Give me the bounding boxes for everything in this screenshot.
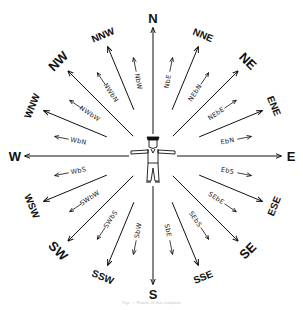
label-wnw: WNW bbox=[22, 91, 42, 120]
label-nwbn: NWbN bbox=[102, 82, 121, 104]
label-n: N bbox=[148, 11, 157, 26]
arrow-sw bbox=[68, 176, 133, 241]
arrow-nbw bbox=[134, 58, 137, 72]
label-sebs: SEbS bbox=[187, 210, 203, 229]
label-sebe: SEbE bbox=[207, 190, 226, 206]
label-wbn: WbN bbox=[70, 136, 88, 147]
label-swbs: SWbS bbox=[102, 209, 120, 230]
sailor-figure-icon bbox=[131, 137, 175, 182]
arrow-nwbn bbox=[97, 73, 105, 85]
arrow-sbw bbox=[134, 240, 137, 254]
label-nebe: NEbE bbox=[206, 105, 226, 122]
label-nebn: NEbN bbox=[187, 83, 204, 103]
label-sbw: SbW bbox=[133, 222, 144, 239]
label-nnw: NNW bbox=[90, 25, 117, 45]
arrow-ne bbox=[173, 71, 238, 136]
arrow-se bbox=[173, 176, 238, 241]
label-e: E bbox=[287, 149, 296, 164]
arrow-nebe bbox=[225, 100, 237, 108]
label-sw: SW bbox=[45, 238, 71, 264]
arrow-nbe bbox=[170, 58, 173, 72]
arrow-swbs bbox=[97, 228, 105, 240]
label-wsw: WSW bbox=[22, 192, 42, 220]
label-nbw: NbW bbox=[133, 73, 144, 91]
arrow-nebn bbox=[201, 73, 209, 85]
label-swbw: SWbW bbox=[78, 189, 101, 208]
arrow-sebe bbox=[225, 204, 237, 212]
label-sse: SSE bbox=[192, 268, 215, 286]
arrow-nw bbox=[68, 71, 133, 136]
arrow-wbs bbox=[55, 173, 69, 176]
figure-caption: Fig. — Points of the compass bbox=[0, 300, 303, 305]
label-ne: NE bbox=[236, 50, 260, 74]
label-w: W bbox=[9, 149, 22, 164]
arrow-ebs bbox=[237, 173, 251, 176]
arrow-ebn bbox=[237, 137, 251, 140]
label-se: SE bbox=[236, 239, 259, 262]
arrow-sbe bbox=[170, 240, 173, 254]
label-sbe: SbE bbox=[163, 223, 173, 238]
label-ese: ESE bbox=[265, 194, 283, 217]
arrow-wbn bbox=[55, 137, 69, 140]
label-wbs: WbS bbox=[70, 165, 87, 176]
label-ssw: SSW bbox=[90, 268, 116, 287]
label-nwbw: NWbW bbox=[78, 104, 102, 124]
label-ene: ENE bbox=[265, 94, 283, 118]
label-ebs: EbS bbox=[220, 166, 235, 176]
label-ebn: EbN bbox=[220, 136, 235, 147]
compass-rose: NNbENNENEbNNENEbEENEEbNEEbSESESEbESESEbS… bbox=[0, 0, 303, 310]
label-nne: NNE bbox=[191, 26, 215, 44]
label-nbe: NbE bbox=[163, 74, 174, 89]
label-nw: NW bbox=[45, 48, 71, 74]
arrow-sebs bbox=[201, 228, 209, 240]
